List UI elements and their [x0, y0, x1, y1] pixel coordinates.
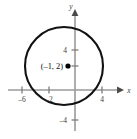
- y-tick-label-4: 4: [63, 46, 67, 55]
- y-axis-label: y: [68, 2, 73, 11]
- x-tick-label-minus6: –6: [17, 95, 26, 104]
- graph-figure: –6 –2 4 4 –4 x y (–1, 2): [0, 0, 137, 139]
- x-axis-arrowhead: [117, 87, 124, 94]
- y-tick-label-minus4: –4: [59, 116, 68, 125]
- center-point-marker: [65, 63, 70, 68]
- center-point-annotation: (–1, 2): [41, 62, 64, 71]
- x-axis-label: x: [126, 86, 131, 95]
- circle-graph: [25, 27, 103, 105]
- x-tick-label-4: 4: [100, 95, 104, 104]
- x-tick-label-minus2: –2: [44, 95, 53, 104]
- coordinate-plane: –6 –2 4 4 –4 x y (–1, 2): [0, 0, 137, 139]
